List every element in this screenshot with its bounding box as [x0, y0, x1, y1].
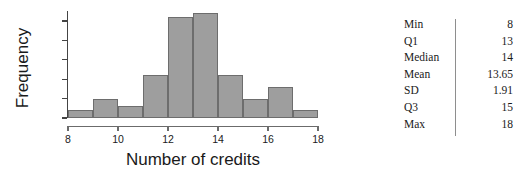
x-tick-mark: [167, 126, 168, 131]
histogram-bar: [243, 99, 268, 118]
histogram-panel: Frequency 0510152025 81012141618 Number …: [0, 0, 360, 177]
stats-value: 13.65: [455, 68, 516, 80]
stats-label: Q1: [404, 35, 455, 47]
stats-table: Min8Q113Median14Mean13.65SD1.91Q315Max18: [404, 18, 516, 134]
y-tick-mark: [62, 59, 67, 60]
histogram-bar: [168, 17, 193, 118]
histogram-bar: [143, 75, 168, 118]
stats-label: Mean: [404, 68, 455, 80]
x-axis-line: [68, 126, 318, 127]
x-tick-mark: [217, 126, 218, 131]
y-tick-mark: [62, 20, 67, 21]
histogram-figure: Frequency 0510152025 81012141618 Number …: [0, 0, 521, 177]
x-tick-mark: [67, 126, 68, 131]
stats-label: Min: [404, 18, 455, 30]
x-tick-label: 8: [65, 133, 71, 145]
y-tick-mark: [62, 117, 67, 118]
x-tick-mark: [317, 126, 318, 131]
x-tick-mark: [117, 126, 118, 131]
stats-row: SD1.91: [404, 84, 516, 101]
stats-label: Q3: [404, 101, 455, 113]
x-tick-label: 10: [112, 133, 124, 145]
x-tick-mark: [267, 126, 268, 131]
stats-row: Mean13.65: [404, 68, 516, 85]
histogram-bar: [118, 106, 143, 118]
y-tick-mark: [62, 79, 67, 80]
stats-value: 14: [455, 51, 516, 63]
stats-value: 8: [455, 18, 516, 30]
x-tick-label: 14: [212, 133, 224, 145]
x-tick-label: 12: [162, 133, 174, 145]
histogram-bar: [268, 87, 293, 118]
stats-value: 1.91: [455, 84, 516, 96]
stats-value: 15: [455, 101, 516, 113]
y-tick-mark: [62, 40, 67, 41]
histogram-bar: [218, 75, 243, 118]
plot-area: [68, 11, 318, 118]
stats-row: Q315: [404, 101, 516, 118]
x-tick-label: 18: [312, 133, 324, 145]
stats-label: SD: [404, 84, 455, 96]
x-axis-title: Number of credits: [68, 150, 318, 170]
stats-row: Q113: [404, 35, 516, 52]
stats-row: Min8: [404, 18, 516, 35]
y-tick-mark: [62, 98, 67, 99]
histogram-bar: [293, 110, 318, 118]
stats-row: Median14: [404, 51, 516, 68]
stats-value: 18: [455, 118, 516, 130]
x-tick-label: 16: [262, 133, 274, 145]
histogram-bar: [68, 110, 93, 118]
stats-row: Max18: [404, 118, 516, 135]
histogram-bar: [193, 13, 218, 118]
histogram-bar: [93, 99, 118, 118]
stats-label: Median: [404, 51, 455, 63]
stats-value: 13: [455, 35, 516, 47]
y-axis-title: Frequency: [13, 8, 33, 128]
stats-label: Max: [404, 118, 455, 130]
